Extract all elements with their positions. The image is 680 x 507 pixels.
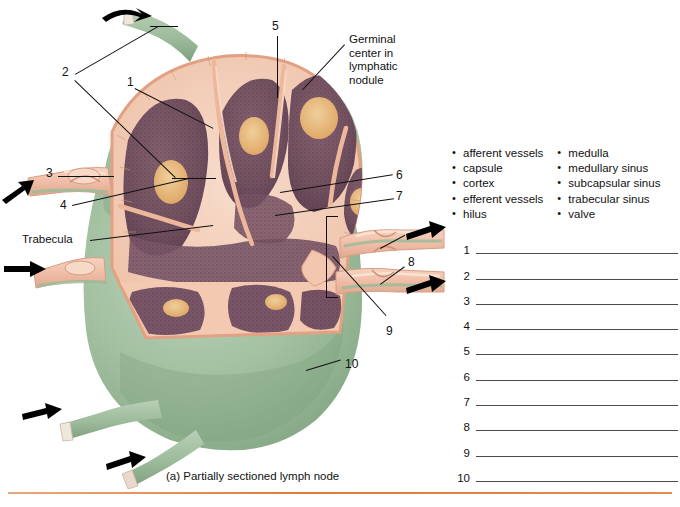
answer-input-line[interactable] — [476, 379, 678, 381]
answer-row[interactable]: 5 — [452, 333, 678, 358]
answer-number: 6 — [452, 371, 470, 384]
callout-germinal-center: Germinal center in lymphatic nodule — [349, 33, 409, 87]
answer-row[interactable]: 10 — [452, 460, 678, 485]
bottom-divider-rule — [8, 492, 672, 494]
answer-blank-list: 1 2 3 4 5 6 7 8 — [452, 232, 678, 485]
label-4: 4 — [60, 199, 67, 211]
figure-caption: (a) Partially sectioned lymph node — [166, 470, 339, 482]
word-bank: afferent vessels capsule cortex efferent… — [452, 146, 678, 222]
leader-5 — [277, 36, 278, 98]
leader-3 — [58, 176, 114, 177]
label-3: 3 — [46, 167, 53, 179]
word-bank-item[interactable]: hilus — [452, 207, 543, 222]
word-bank-item[interactable]: cortex — [452, 176, 543, 191]
answer-number: 8 — [452, 421, 470, 434]
word-bank-column-1: afferent vessels capsule cortex efferent… — [452, 146, 543, 222]
germinal-center-labeled — [300, 97, 338, 139]
word-bank-item[interactable]: valve — [557, 207, 660, 222]
answer-input-line[interactable] — [476, 480, 678, 482]
word-bank-column-2: medulla medullary sinus subcapsular sinu… — [557, 146, 660, 222]
bracket-9-top — [326, 216, 338, 217]
answer-row[interactable]: 1 — [452, 232, 678, 257]
word-bank-item[interactable]: capsule — [452, 161, 543, 176]
answer-row[interactable]: 7 — [452, 384, 678, 409]
answer-row[interactable]: 3 — [452, 283, 678, 308]
word-bank-item[interactable]: efferent vessels — [452, 192, 543, 207]
answer-input-line[interactable] — [476, 429, 678, 431]
word-bank-item[interactable]: medullary sinus — [557, 161, 660, 176]
bracket-9-spine — [326, 216, 327, 298]
answer-input-line[interactable] — [476, 404, 678, 406]
label-1: 1 — [127, 76, 134, 88]
afferent-arrow-left-upper — [2, 180, 34, 204]
label-10: 10 — [345, 358, 358, 370]
label-2: 2 — [62, 66, 69, 78]
answer-input-line[interactable] — [476, 252, 678, 254]
answer-input-line[interactable] — [476, 353, 678, 355]
label-8: 8 — [408, 256, 415, 268]
leader-2-lower-tail — [172, 178, 216, 179]
answer-number: 9 — [452, 447, 470, 460]
answer-input-line[interactable] — [476, 278, 678, 280]
word-bank-item[interactable]: trabecular sinus — [557, 192, 660, 207]
answer-number: 1 — [452, 244, 470, 257]
answer-row[interactable]: 6 — [452, 358, 678, 383]
label-5: 5 — [272, 20, 279, 32]
answer-row[interactable]: 8 — [452, 409, 678, 434]
bracket-9-bottom — [326, 297, 338, 298]
answer-number: 5 — [452, 345, 470, 358]
word-bank-item[interactable]: afferent vessels — [452, 146, 543, 161]
answer-number: 4 — [452, 320, 470, 333]
label-6: 6 — [396, 169, 403, 181]
afferent-arrow-bottom-1 — [22, 403, 62, 420]
callout-trabecula: Trabecula — [22, 233, 73, 245]
label-7: 7 — [396, 190, 403, 202]
answer-row[interactable]: 9 — [452, 434, 678, 459]
answer-row[interactable]: 2 — [452, 257, 678, 282]
answer-number: 7 — [452, 396, 470, 409]
word-bank-item[interactable]: medulla — [557, 146, 660, 161]
answer-number: 10 — [452, 472, 470, 485]
word-bank-item[interactable]: subcapsular sinus — [557, 176, 660, 191]
answer-number: 2 — [452, 270, 470, 283]
worksheet-page: Germinal center in lymphatic nodule Trab… — [0, 0, 680, 507]
answer-input-line[interactable] — [476, 328, 678, 330]
label-9: 9 — [386, 325, 393, 337]
answer-number: 3 — [452, 295, 470, 308]
answer-input-line[interactable] — [476, 455, 678, 457]
leader-2-upper-tail — [150, 26, 178, 27]
answer-input-line[interactable] — [476, 303, 678, 305]
answer-row[interactable]: 4 — [452, 308, 678, 333]
